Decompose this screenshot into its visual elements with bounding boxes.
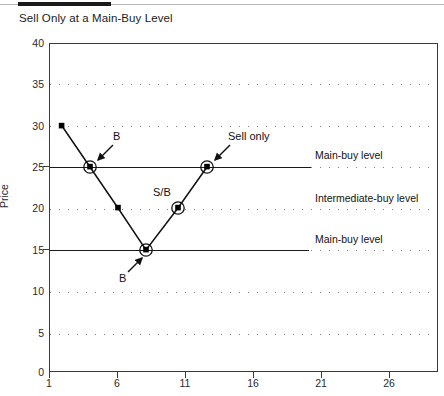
annotation-label-b-lower: B (119, 272, 126, 284)
y-axis-title: Price (0, 184, 10, 208)
reference-line-main-buy-upper (50, 167, 311, 168)
gridline-20 (50, 209, 437, 210)
annotation-label-sell-only: Sell only (228, 130, 270, 142)
x-tick-label-16: 16 (247, 377, 259, 389)
gridline-5 (50, 334, 437, 335)
gridline-35 (50, 84, 437, 85)
x-tick-label-1: 1 (46, 377, 52, 389)
page-title: Sell Only at a Main-Buy Level (19, 12, 173, 24)
reference-label-main-buy-lower: Main-buy level (315, 233, 383, 245)
x-tick-label-26: 26 (383, 377, 395, 389)
plot-area (49, 43, 438, 372)
y-tick-label-30: 30 (14, 120, 44, 132)
header-accent-rule (18, 2, 111, 6)
annotation-label-sb: S/B (153, 186, 171, 198)
y-tick-label-5: 5 (14, 327, 44, 339)
y-tick-label-0: 0 (14, 366, 44, 378)
gridline-10 (50, 292, 437, 293)
y-tick-label-15: 15 (14, 244, 44, 256)
x-tick-label-21: 21 (315, 377, 327, 389)
reference-label-main-buy-upper: Main-buy level (315, 149, 383, 161)
reference-label-intermediate: Intermediate-buy level (315, 192, 418, 204)
y-tick-label-40: 40 (14, 37, 44, 49)
annotation-label-b-upper: B (113, 130, 120, 142)
x-tick-label-11: 11 (180, 377, 191, 389)
x-tick-label-6: 6 (114, 377, 120, 389)
y-tick-label-35: 35 (14, 78, 44, 90)
reference-line-main-buy-lower (50, 250, 309, 251)
y-tick-label-20: 20 (14, 202, 44, 214)
y-tick-label-10: 10 (14, 285, 44, 297)
y-tick-label-25: 25 (14, 161, 44, 173)
gridline-30 (50, 126, 437, 127)
